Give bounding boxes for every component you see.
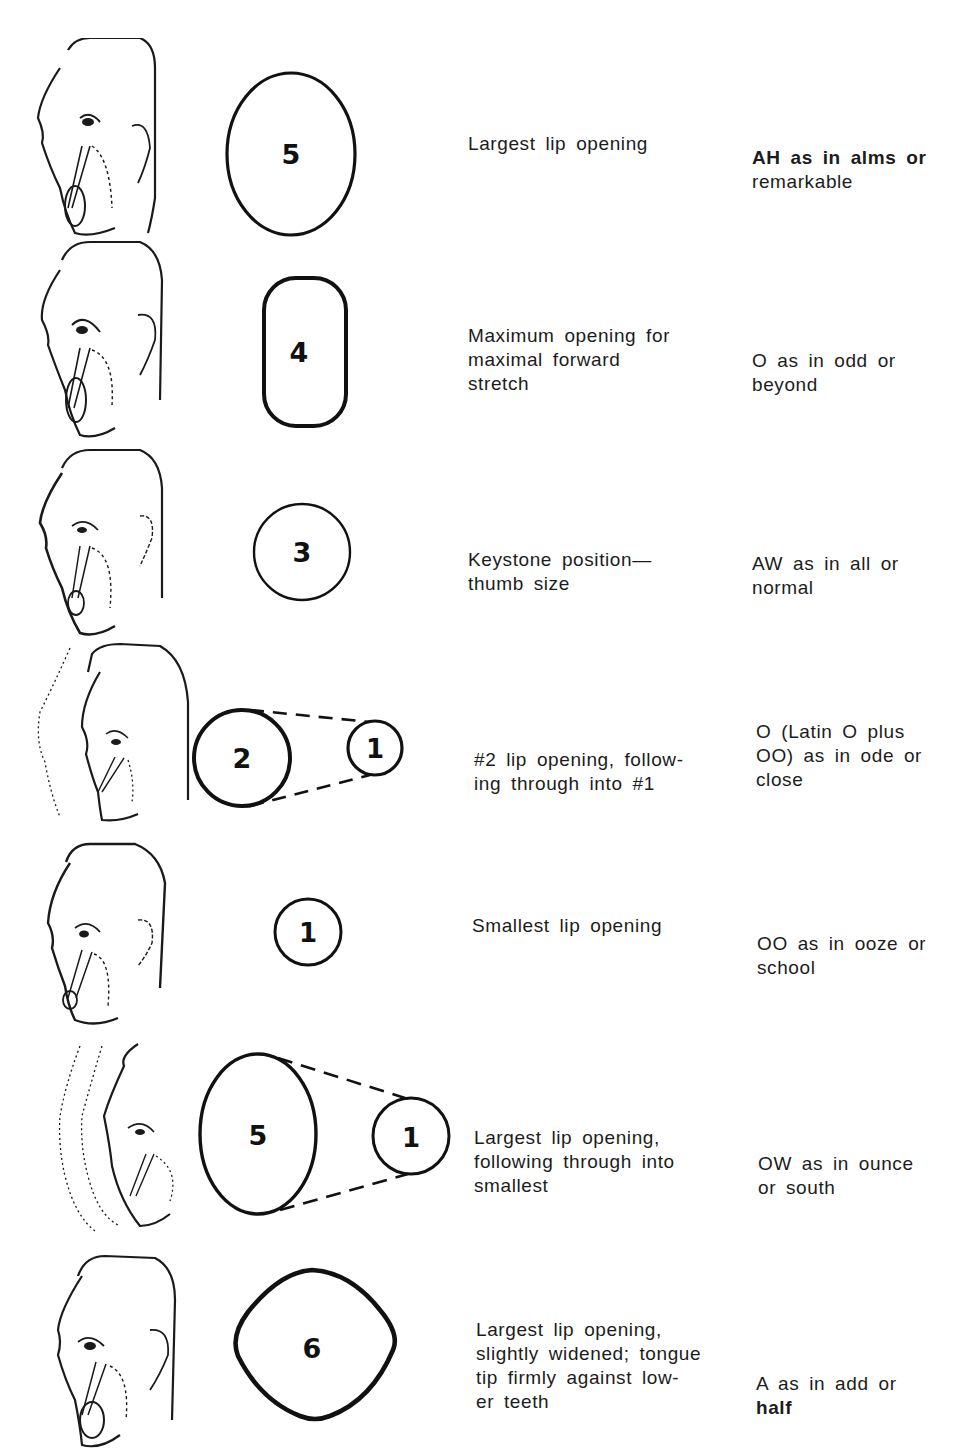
- face-profile-transition-icon: [20, 1036, 180, 1236]
- svg-text:1: 1: [402, 1123, 420, 1153]
- svg-text:3: 3: [293, 537, 312, 568]
- face-profile-icon: [20, 448, 170, 638]
- face-profile-icon: [20, 38, 170, 243]
- face-profile-icon: [20, 838, 170, 1028]
- row-ah: 5 Largest lip opening AH as in alms orre…: [0, 38, 970, 243]
- sound-example: AH as in alms orremarkable: [752, 122, 926, 194]
- row-ow: 5 1 Largest lip opening,following throug…: [0, 1036, 970, 1236]
- description-text: Largest lip opening,following through in…: [474, 1102, 675, 1198]
- lip-shape-circle-3-icon: 3: [180, 448, 460, 638]
- svg-text:4: 4: [290, 337, 309, 368]
- svg-text:1: 1: [366, 734, 384, 764]
- row-o-odd: 4 Maximum opening formaximal forwardstre…: [0, 240, 970, 440]
- sound-example: A as in add orhalf: [756, 1348, 897, 1420]
- svg-text:1: 1: [299, 918, 317, 948]
- lip-shape-rounded-diamond-6-icon: 6: [180, 1250, 460, 1455]
- sound-example: O (Latin O plusOO) as in ode orclose: [756, 696, 922, 792]
- face-profile-icon: [20, 1250, 180, 1455]
- row-a-add: 6 Largest lip opening,slightly widened; …: [0, 1250, 970, 1455]
- description-text: Keystone position—thumb size: [468, 524, 652, 596]
- description-text: Largest lip opening,slightly widened; to…: [476, 1294, 701, 1414]
- lip-shape-transition-2-to-1-icon: 2 1: [180, 642, 460, 832]
- description-text: Smallest lip opening: [472, 914, 662, 938]
- description-text: Maximum opening formaximal forwardstretc…: [468, 300, 670, 396]
- row-o-ode: 2 1 #2 lip opening, follow-ing through i…: [0, 642, 970, 832]
- lip-shape-oval-5-icon: 5: [180, 38, 460, 243]
- lip-shape-transition-5-to-1-icon: 5 1: [180, 1036, 470, 1236]
- face-profile-transition-icon: [20, 642, 190, 832]
- svg-text:5: 5: [249, 1120, 268, 1151]
- sound-example: OO as in ooze orschool: [757, 908, 926, 980]
- svg-text:6: 6: [303, 1333, 322, 1364]
- sound-example: O as in odd orbeyond: [752, 325, 896, 397]
- sound-example: AW as in all ornormal: [752, 528, 899, 600]
- row-oo: 1 Smallest lip opening OO as in ooze ors…: [0, 838, 970, 1028]
- description-text: #2 lip opening, follow-ing through into …: [474, 724, 684, 796]
- description-text: Largest lip opening: [468, 132, 648, 156]
- face-profile-icon: [20, 240, 170, 440]
- svg-text:2: 2: [233, 743, 252, 774]
- lip-shape-rounded-rect-4-icon: 4: [180, 240, 460, 440]
- sound-example: OW as in ounceor south: [758, 1128, 914, 1200]
- svg-text:5: 5: [282, 139, 301, 170]
- row-aw: 3 Keystone position—thumb size AW as in …: [0, 448, 970, 638]
- lip-shape-small-circle-1-icon: 1: [180, 838, 460, 1028]
